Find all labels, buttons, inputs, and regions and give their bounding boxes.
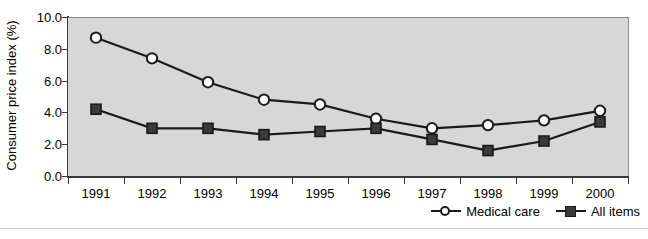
- y-axis-title-text: Consumer price index (%): [4, 20, 19, 170]
- legend-label: Medical care: [466, 204, 540, 219]
- plot-area: [68, 17, 629, 177]
- y-axis-tick-mark: [62, 49, 68, 50]
- legend-entry-medical-care[interactable]: Medical care: [431, 204, 540, 219]
- x-axis-tick-mark: [68, 177, 69, 184]
- y-axis-tick-label: 10.0: [24, 10, 62, 25]
- filled-square-marker-icon: [556, 205, 586, 217]
- x-axis-tick-mark: [292, 177, 293, 184]
- y-axis-tick-label: 2.0: [24, 137, 62, 152]
- x-axis-tick-mark: [460, 177, 461, 184]
- x-axis-tick-mark: [516, 177, 517, 184]
- chart-legend: Medical care All items: [410, 200, 640, 222]
- footer-divider: [0, 228, 648, 229]
- y-axis-tick-label: 4.0: [24, 105, 62, 120]
- legend-entry-all-items[interactable]: All items: [556, 204, 640, 219]
- y-axis-tick-labels: 0.02.04.06.08.010.0: [24, 0, 62, 190]
- x-axis-tick-label: 1994: [234, 186, 294, 201]
- x-axis-tick-label: 2000: [570, 186, 630, 201]
- x-axis-tick-label: 1992: [122, 186, 182, 201]
- x-axis-tick-mark: [404, 177, 405, 184]
- x-axis-tick-mark: [628, 177, 629, 184]
- x-axis-tick-label: 1999: [514, 186, 574, 201]
- y-axis-tick-mark: [62, 144, 68, 145]
- y-axis-tick-label: 0.0: [24, 169, 62, 184]
- x-axis-tick-mark: [572, 177, 573, 184]
- x-axis-tick-mark: [236, 177, 237, 184]
- x-axis-tick-mark: [124, 177, 125, 184]
- x-axis-tick-label: 1996: [346, 186, 406, 201]
- x-axis-tick-label: 1993: [178, 186, 238, 201]
- y-axis-tick-label: 8.0: [24, 41, 62, 56]
- y-axis-tick-label: 6.0: [24, 73, 62, 88]
- open-circle-marker-icon: [431, 205, 461, 217]
- y-axis-title: Consumer price index (%): [0, 0, 22, 190]
- y-axis-tick-mark: [62, 112, 68, 113]
- x-axis-tick-label: 1995: [290, 186, 350, 201]
- x-axis-tick-mark: [348, 177, 349, 184]
- legend-label: All items: [591, 204, 640, 219]
- x-axis-tick-mark: [180, 177, 181, 184]
- x-axis-tick-label: 1997: [402, 186, 462, 201]
- x-axis-tick-label: 1998: [458, 186, 518, 201]
- y-axis-tick-mark: [62, 81, 68, 82]
- chart-figure: Consumer price index (%) 0.02.04.06.08.0…: [0, 0, 648, 239]
- y-axis-tick-mark: [62, 17, 68, 18]
- x-axis-tick-label: 1991: [66, 186, 126, 201]
